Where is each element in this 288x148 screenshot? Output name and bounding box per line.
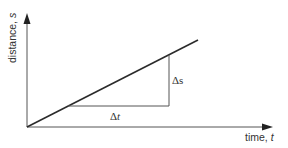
x-axis-arrow-icon bbox=[262, 124, 273, 131]
delta-t-label: Δt bbox=[110, 110, 121, 122]
delta-s-label: Δs bbox=[172, 74, 183, 86]
distance-time-diagram: Δt Δs time, t distance, s bbox=[0, 0, 288, 148]
y-axis-label: distance, s bbox=[6, 12, 18, 63]
y-axis-arrow-icon bbox=[24, 13, 31, 24]
x-axis-label: time, t bbox=[245, 131, 275, 143]
